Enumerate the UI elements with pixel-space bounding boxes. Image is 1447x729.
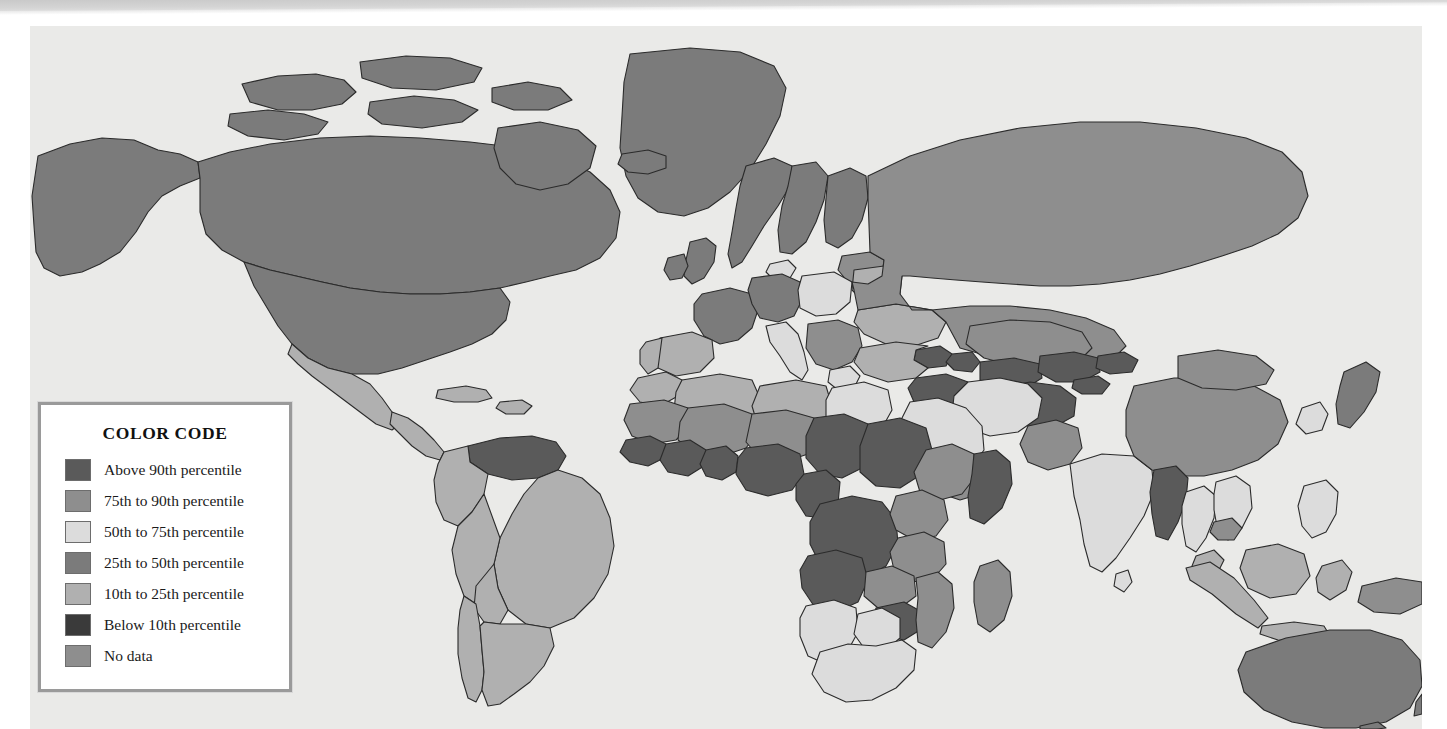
region-central-america xyxy=(390,412,444,460)
legend-label-below-10: Below 10th percentile xyxy=(104,616,241,634)
legend-swatch-above-90 xyxy=(65,459,91,481)
region-sri-lanka xyxy=(1114,570,1132,592)
legend-item-above-90[interactable]: Above 90th percentile xyxy=(45,454,285,485)
legend-item-25-50[interactable]: 25th to 50th percentile xyxy=(45,547,285,578)
region-ghana xyxy=(700,446,738,480)
region-pakistan xyxy=(1020,420,1082,470)
region-arctic-islands-5 xyxy=(492,82,572,110)
region-nigeria xyxy=(736,444,804,496)
region-india xyxy=(1070,454,1154,572)
legend-item-10-25[interactable]: 10th to 25th percentile xyxy=(45,578,285,609)
region-arctic-islands-3 xyxy=(360,56,482,90)
region-poland xyxy=(798,272,852,316)
legend-swatch-no-data xyxy=(65,645,91,667)
region-kyrgyzstan xyxy=(1096,352,1138,374)
legend-swatch-75-90 xyxy=(65,490,91,512)
region-arctic-islands-2 xyxy=(228,110,328,140)
region-thailand xyxy=(1182,486,1216,552)
region-alaska xyxy=(32,138,200,276)
region-balkans xyxy=(806,320,862,370)
region-guinea xyxy=(620,436,666,466)
region-japan xyxy=(1336,362,1380,428)
legend-swatch-25-50 xyxy=(65,552,91,574)
region-azerbaijan xyxy=(946,352,980,372)
legend-swatch-10-25 xyxy=(65,583,91,605)
legend-swatch-50-75 xyxy=(65,521,91,543)
region-korea xyxy=(1296,402,1328,434)
region-arctic-islands-4 xyxy=(368,96,478,128)
legend-item-50-75[interactable]: 50th to 75th percentile xyxy=(45,516,285,547)
legend-label-10-25: 10th to 25th percentile xyxy=(104,585,244,603)
region-mozambique xyxy=(916,572,954,648)
region-brazil xyxy=(494,470,614,628)
region-papua-new-guinea xyxy=(1358,578,1422,614)
region-united-kingdom xyxy=(684,238,716,284)
region-somalia xyxy=(968,450,1012,524)
region-mongolia xyxy=(1178,350,1274,390)
legend-label-75-90: 75th to 90th percentile xyxy=(104,492,244,510)
legend-swatch-below-10 xyxy=(65,614,91,636)
legend-label-above-90: Above 90th percentile xyxy=(104,461,242,479)
region-iceland xyxy=(618,150,666,174)
legend-label-50-75: 50th to 75th percentile xyxy=(104,523,244,541)
region-italy xyxy=(766,322,808,380)
legend-item-no-data[interactable]: No data xyxy=(45,640,285,671)
region-hispaniola xyxy=(496,400,532,414)
region-south-africa xyxy=(812,640,916,702)
legend-title: COLOR CODE xyxy=(45,423,285,444)
region-argentina xyxy=(480,622,554,706)
region-china xyxy=(1126,378,1288,476)
world-map-panel: COLOR CODE Above 90th percentile 75th to… xyxy=(30,26,1422,729)
region-philippines xyxy=(1298,480,1338,538)
region-france xyxy=(694,288,758,344)
region-sulawesi xyxy=(1316,560,1352,600)
legend-label-25-50: 25th to 50th percentile xyxy=(104,554,244,572)
region-borneo xyxy=(1240,544,1310,598)
legend-item-75-90[interactable]: 75th to 90th percentile xyxy=(45,485,285,516)
region-ivory-coast xyxy=(660,440,706,476)
region-cuba xyxy=(436,386,492,402)
legend-item-below-10[interactable]: Below 10th percentile xyxy=(45,609,285,640)
legend-inner-frame: COLOR CODE Above 90th percentile 75th to… xyxy=(45,409,285,685)
region-arctic-islands-1 xyxy=(242,74,356,110)
region-finland xyxy=(824,168,868,248)
legend-label-no-data: No data xyxy=(104,647,153,665)
region-uganda-kenya xyxy=(890,490,948,540)
region-turkey xyxy=(854,342,928,382)
region-madagascar xyxy=(974,560,1012,632)
scanned-page: COLOR CODE Above 90th percentile 75th to… xyxy=(0,0,1447,729)
region-australia xyxy=(1238,630,1422,728)
map-legend: COLOR CODE Above 90th percentile 75th to… xyxy=(38,402,292,692)
